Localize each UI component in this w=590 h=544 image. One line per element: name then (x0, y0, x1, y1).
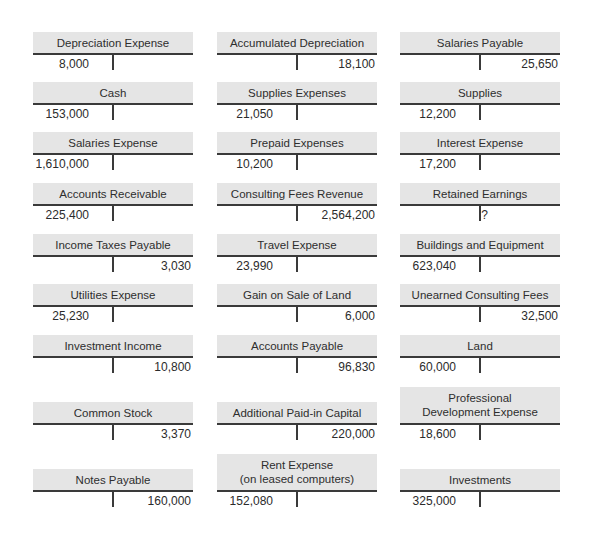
t-account-stem (112, 358, 114, 373)
account-title: Cash (33, 82, 193, 103)
credit-amount: 32,500 (521, 309, 558, 323)
account-title: Prepaid Expenses (217, 132, 377, 153)
t-account-body: 160,000 (33, 492, 193, 510)
t-account-stem (296, 155, 298, 170)
t-account-rent-expense: Rent Expense (on leased computers) 152,0… (217, 454, 377, 510)
t-account-body: 18,100 (217, 55, 377, 73)
t-account-stem (112, 492, 114, 507)
credit-amount: 25,650 (521, 57, 558, 71)
t-account-depreciation-expense: Depreciation Expense 8,000 (33, 32, 193, 73)
t-account-body: 32,500 (400, 307, 560, 325)
account-title: Accounts Receivable (33, 183, 193, 204)
t-account-body: 6,000 (217, 307, 377, 325)
t-account-investments: Investments 325,000 (400, 469, 560, 510)
t-account-stem (479, 425, 481, 440)
t-account-body: 8,000 (33, 55, 193, 73)
t-account-stem (479, 105, 481, 120)
credit-amount: ? (481, 208, 488, 222)
account-title: Depreciation Expense (33, 32, 193, 53)
t-account-cash: Cash 153,000 (33, 82, 193, 123)
debit-amount: 21,050 (236, 107, 273, 121)
t-account-body: 225,400 (33, 206, 193, 224)
t-account-land: Land 60,000 (400, 335, 560, 376)
account-title: Salaries Expense (33, 132, 193, 153)
account-title: Investments (400, 469, 560, 490)
t-account-income-taxes-payable: Income Taxes Payable 3,030 (33, 234, 193, 275)
account-title: Supplies (400, 82, 560, 103)
t-account-stem (296, 55, 298, 70)
t-account-body: 623,040 (400, 257, 560, 275)
t-account-salaries-payable: Salaries Payable 25,650 (400, 32, 560, 73)
t-account-stem (112, 155, 114, 170)
account-title: Consulting Fees Revenue (217, 183, 377, 204)
t-account-stem (479, 206, 481, 221)
t-account-buildings-and-equipment: Buildings and Equipment 623,040 (400, 234, 560, 275)
account-title: Retained Earnings (400, 183, 560, 204)
debit-amount: 1,610,000 (36, 157, 89, 171)
account-title: Land (400, 335, 560, 356)
t-account-unearned-consulting-fees: Unearned Consulting Fees 32,500 (400, 284, 560, 325)
debit-amount: 152,080 (230, 494, 273, 508)
t-account-body: 3,030 (33, 257, 193, 275)
t-account-body: 3,370 (33, 425, 193, 443)
debit-amount: 325,000 (413, 494, 456, 508)
t-account-accounts-receivable: Accounts Receivable 225,400 (33, 183, 193, 224)
t-account-body: 1,610,000 (33, 155, 193, 173)
debit-amount: 623,040 (413, 259, 456, 273)
t-account-body: ? (400, 206, 560, 224)
t-account-gain-on-sale-of-land: Gain on Sale of Land 6,000 (217, 284, 377, 325)
t-account-travel-expense: Travel Expense 23,990 (217, 234, 377, 275)
debit-amount: 12,200 (419, 107, 456, 121)
account-title: Unearned Consulting Fees (400, 284, 560, 305)
t-account-body: 25,230 (33, 307, 193, 325)
t-account-stem (112, 105, 114, 120)
t-account-body: 10,200 (217, 155, 377, 173)
t-account-body: 18,600 (400, 425, 560, 443)
account-title: Travel Expense (217, 234, 377, 255)
account-title: Notes Payable (33, 469, 193, 490)
t-account-stem (112, 307, 114, 322)
credit-amount: 160,000 (148, 494, 191, 508)
account-title: Buildings and Equipment (400, 234, 560, 255)
debit-amount: 23,990 (236, 259, 273, 273)
t-account-body: 2,564,200 (217, 206, 377, 224)
t-account-notes-payable: Notes Payable 160,000 (33, 469, 193, 510)
t-account-salaries-expense: Salaries Expense 1,610,000 (33, 132, 193, 173)
credit-amount: 96,830 (338, 360, 375, 374)
t-account-body: 21,050 (217, 105, 377, 123)
t-account-stem (112, 55, 114, 70)
account-title: Interest Expense (400, 132, 560, 153)
debit-amount: 17,200 (419, 157, 456, 171)
t-account-stem (296, 105, 298, 120)
account-title: Accumulated Depreciation (217, 32, 377, 53)
t-account-body: 12,200 (400, 105, 560, 123)
credit-amount: 3,030 (161, 259, 191, 273)
t-account-stem (296, 492, 298, 507)
t-account-body: 17,200 (400, 155, 560, 173)
t-account-stem (479, 155, 481, 170)
debit-amount: 25,230 (52, 309, 89, 323)
t-account-body: 23,990 (217, 257, 377, 275)
debit-amount: 153,000 (46, 107, 89, 121)
account-title: Gain on Sale of Land (217, 284, 377, 305)
debit-amount: 18,600 (419, 427, 456, 441)
t-account-interest-expense: Interest Expense 17,200 (400, 132, 560, 173)
account-title: Supplies Expenses (217, 82, 377, 103)
t-account-stem (296, 425, 298, 440)
debit-amount: 225,400 (46, 208, 89, 222)
credit-amount: 6,000 (345, 309, 375, 323)
t-account-supplies: Supplies 12,200 (400, 82, 560, 123)
account-title: Salaries Payable (400, 32, 560, 53)
t-account-body: 325,000 (400, 492, 560, 510)
credit-amount: 10,800 (154, 360, 191, 374)
t-account-additional-paid-in-capital: Additional Paid-in Capital 220,000 (217, 402, 377, 443)
t-account-stem (479, 307, 481, 322)
t-account-prepaid-expenses: Prepaid Expenses 10,200 (217, 132, 377, 173)
account-title: Professional Development Expense (400, 387, 560, 423)
t-account-accumulated-depreciation: Accumulated Depreciation 18,100 (217, 32, 377, 73)
credit-amount: 2,564,200 (322, 208, 375, 222)
t-account-stem (296, 257, 298, 272)
credit-amount: 3,370 (161, 427, 191, 441)
debit-amount: 60,000 (419, 360, 456, 374)
account-title: Accounts Payable (217, 335, 377, 356)
